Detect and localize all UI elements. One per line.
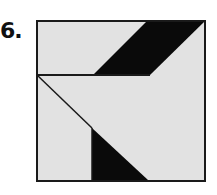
geometric-figure [0, 0, 217, 195]
